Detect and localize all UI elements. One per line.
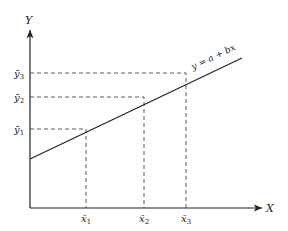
y-bar-2-label: ȳ2 xyxy=(13,92,24,105)
y-bar-3-label: ȳ3 xyxy=(13,68,24,81)
line-equation: y = a + bx xyxy=(189,42,237,72)
regression-diagram: Y X y = a + bx ȳ3 ȳ2 ȳ1 x̄1 x̄2 x̄3 xyxy=(0,0,288,231)
guide-point-3 xyxy=(30,73,186,208)
x-bar-3-label: x̄3 xyxy=(181,213,191,226)
x-bar-2-label: x̄2 xyxy=(139,213,149,226)
x-bar-1-label: x̄1 xyxy=(81,213,91,226)
y-bar-1-label: ȳ1 xyxy=(13,124,24,137)
guide-point-1 xyxy=(30,129,86,208)
guide-point-2 xyxy=(30,97,144,208)
x-axis-label: X xyxy=(265,202,275,215)
y-axis-label: Y xyxy=(25,14,34,27)
